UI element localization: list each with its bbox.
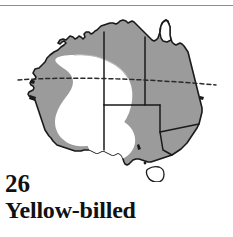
species-name: Yellow-billed (5, 197, 205, 224)
australia-map-svg (0, 10, 233, 182)
caption-block: 26 Yellow-billed (5, 170, 205, 224)
distribution-map (0, 10, 233, 182)
figure-panel: 26 Yellow-billed (0, 0, 233, 237)
bass-strait-island (144, 162, 147, 165)
entry-number: 26 (5, 170, 205, 197)
top-divider-rule (0, 5, 233, 6)
